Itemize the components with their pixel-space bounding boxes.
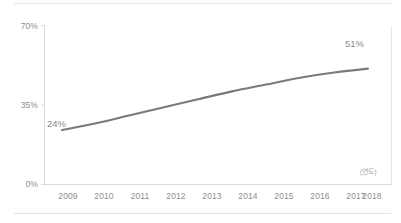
y-tick-label-0: 0% <box>6 179 38 189</box>
data-label-start: 24% <box>47 118 66 129</box>
x-tick-label-2012: 2012 <box>159 191 193 201</box>
data-label-end: 51% <box>345 38 364 49</box>
x-tick-label-2010: 2010 <box>87 191 121 201</box>
data-series-line <box>62 69 368 130</box>
y-tick-label-35: 35% <box>6 100 38 110</box>
x-tick-label-2016: 2016 <box>303 191 337 201</box>
x-tick-label-2015: 2015 <box>267 191 301 201</box>
x-tick-label-2014: 2014 <box>231 191 265 201</box>
x-tick-label-2018: 2018 <box>355 191 389 201</box>
line-chart-plot <box>0 0 401 223</box>
x-axis-unit-label: (연도) <box>360 166 377 176</box>
x-tick-label-2009: 2009 <box>51 191 85 201</box>
chart-figure: 70% 35% 0% 2009 2010 2011 2012 2013 2014… <box>0 0 401 223</box>
x-tick-label-2013: 2013 <box>195 191 229 201</box>
y-tick-label-70: 70% <box>6 21 38 31</box>
x-tick-label-2011: 2011 <box>123 191 157 201</box>
